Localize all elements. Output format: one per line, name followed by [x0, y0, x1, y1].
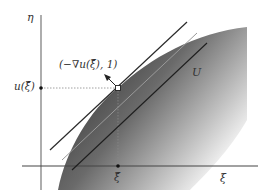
- tangent-point: [116, 86, 121, 91]
- region-label: U: [192, 67, 201, 78]
- u-xi-bar-point: [39, 86, 43, 90]
- diagram-canvas: [0, 0, 269, 195]
- convex-region-diagram: η ξ u(ξ̄) ξ̄ (−∇u(ξ̄), 1) U: [0, 0, 269, 195]
- xi-bar-label: ξ̄: [114, 172, 120, 183]
- u-xi-bar-label: u(ξ̄): [14, 81, 35, 92]
- xi-bar-point: [116, 164, 120, 168]
- xi-axis-label: ξ: [220, 173, 226, 184]
- normal-vector-label: (−∇u(ξ̄), 1): [59, 59, 117, 70]
- eta-axis-label: η: [27, 12, 34, 23]
